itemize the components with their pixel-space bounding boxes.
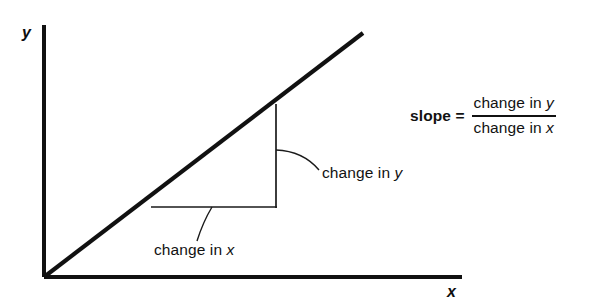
- fraction-denominator: change in x: [472, 118, 556, 139]
- fraction-numerator-prefix: change in: [474, 94, 547, 111]
- label-change-in-y-prefix: change in: [322, 164, 395, 181]
- label-change-in-y: change in y: [322, 164, 402, 182]
- label-change-in-y-variable: y: [395, 164, 403, 181]
- slope-formula: slope = change in y change in x: [410, 93, 556, 138]
- slope-formula-left-side: slope =: [410, 107, 472, 125]
- label-change-in-x-prefix: change in: [154, 241, 227, 258]
- leader-line-change-in-y: [276, 150, 319, 170]
- fraction-denominator-variable: x: [546, 119, 554, 136]
- fraction-denominator-prefix: change in: [474, 119, 547, 136]
- label-change-in-x-variable: x: [227, 241, 235, 258]
- fraction-bar: [472, 115, 556, 117]
- leader-line-change-in-x: [197, 207, 212, 241]
- x-axis-label: x: [447, 283, 456, 301]
- label-change-in-x: change in x: [154, 241, 234, 259]
- diagram-canvas: [0, 0, 599, 308]
- slope-diagram-figure: y x change in y change in x slope = chan…: [0, 0, 599, 308]
- y-axis-label: y: [22, 24, 31, 42]
- fraction-numerator: change in y: [472, 93, 556, 114]
- slope-formula-fraction: change in y change in x: [472, 93, 556, 138]
- fraction-numerator-variable: y: [546, 94, 554, 111]
